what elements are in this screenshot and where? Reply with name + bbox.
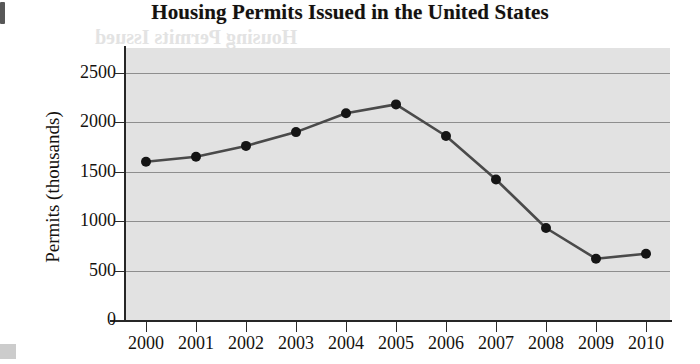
data-series-layer	[0, 0, 700, 364]
data-point-2006	[441, 131, 451, 141]
chart-figure: Housing Permits Issued that of the housi…	[0, 0, 700, 364]
data-point-2003	[291, 127, 301, 137]
data-point-2009	[591, 254, 601, 264]
data-point-2005	[391, 99, 401, 109]
data-point-2010	[641, 249, 651, 259]
series-line-housing-permits	[146, 104, 646, 258]
data-point-2002	[241, 141, 251, 151]
series-markers-group	[141, 99, 651, 263]
data-point-2001	[191, 152, 201, 162]
data-point-2000	[141, 157, 151, 167]
data-point-2004	[341, 108, 351, 118]
data-point-2007	[491, 175, 501, 185]
data-point-2008	[541, 223, 551, 233]
